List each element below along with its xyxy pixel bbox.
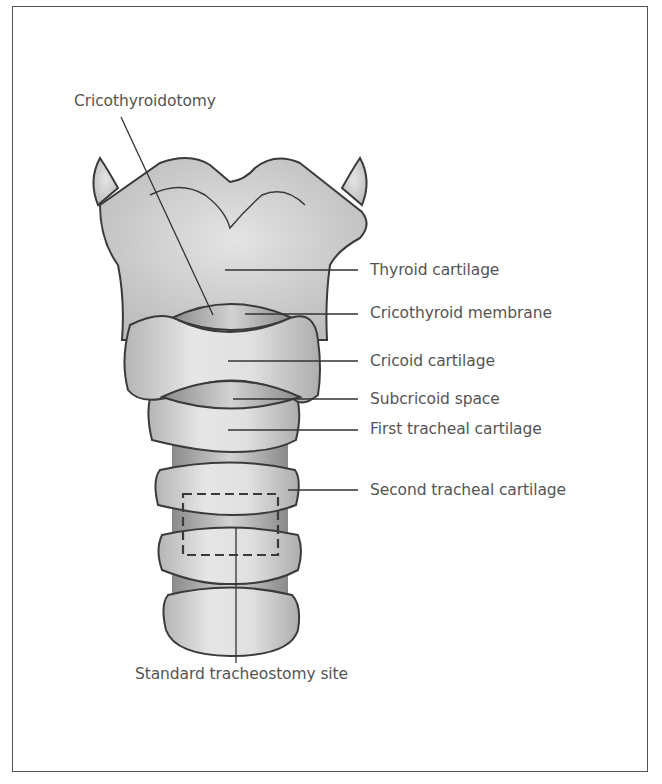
label-thyroid-cartilage: Thyroid cartilage — [370, 261, 499, 279]
label-second-tracheal-cartilage: Second tracheal cartilage — [370, 481, 566, 499]
trachea — [148, 392, 301, 657]
label-cricothyroidotomy: Cricothyroidotomy — [74, 92, 216, 110]
label-standard-tracheostomy-site: Standard tracheostomy site — [135, 665, 348, 683]
label-cricothyroid-membrane: Cricothyroid membrane — [370, 304, 552, 322]
label-cricoid-cartilage: Cricoid cartilage — [370, 352, 495, 370]
label-first-tracheal-cartilage: First tracheal cartilage — [370, 420, 542, 438]
label-subcricoid-space: Subcricoid space — [370, 390, 500, 408]
